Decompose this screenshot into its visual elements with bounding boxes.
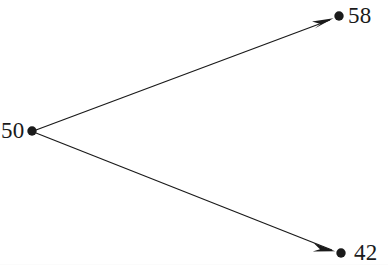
diagram-canvas [0, 0, 388, 278]
node-dot-upper[interactable] [334, 11, 343, 20]
edge-50-to-42[interactable] [36, 133, 335, 251]
edge-line-upper [36, 20, 330, 130]
node-dot-source[interactable] [27, 126, 36, 135]
edge-line-lower [36, 133, 332, 250]
arrowhead-upper-icon [312, 18, 334, 28]
node-label-lower: 42 [354, 241, 377, 264]
edge-50-to-58[interactable] [36, 18, 334, 130]
node-dot-lower[interactable] [336, 248, 345, 257]
arrowhead-lower-icon [313, 243, 336, 251]
node-label-source: 50 [1, 119, 24, 142]
page-baseline-rule [0, 264, 388, 265]
node-label-upper: 58 [348, 4, 371, 27]
